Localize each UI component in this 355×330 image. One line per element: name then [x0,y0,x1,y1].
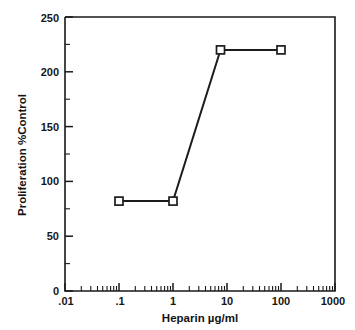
x-tick-label-0.01: .01 [58,295,73,307]
x-axis-title: Heparin µg/ml [162,312,238,324]
chart-figure: 0 50 100 150 200 250 [0,0,355,330]
y-tick-label-150: 150 [41,121,59,133]
y-tick-label-250: 250 [41,12,59,24]
proliferation-heparin-line-chart: 0 50 100 150 200 250 [0,0,355,330]
data-point-marker [169,197,177,205]
data-point-marker [217,46,225,54]
x-tick-label-0.1: .1 [115,295,124,307]
x-tick-label-10: 10 [221,295,233,307]
y-tick-label-100: 100 [41,175,59,187]
y-axis-title: Proliferation %Control [16,94,28,216]
chart-background [0,0,355,330]
x-tick-label-1000: 1000 [321,295,345,307]
y-tick-label-50: 50 [47,230,59,242]
data-point-marker [115,197,123,205]
data-point-marker [277,46,285,54]
x-tick-label-100: 100 [272,295,290,307]
x-tick-label-1: 1 [170,295,176,307]
y-tick-label-200: 200 [41,66,59,78]
